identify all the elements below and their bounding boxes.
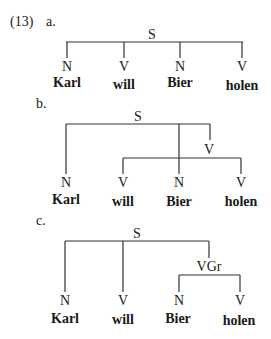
tree-b-cat-1: N [61, 176, 71, 190]
tree-c-word-4: holen [223, 314, 256, 328]
tree-c-inner: VGr [197, 260, 222, 274]
tree-c-word-2: will [112, 313, 134, 327]
tree-c-word-1: Karl [51, 312, 79, 326]
tree-c-cat-4: V [235, 294, 245, 308]
tree-c-cat-2: V [118, 294, 128, 308]
tree-c-cat-1: N [60, 294, 70, 308]
tree-a-label: a. [46, 15, 56, 29]
tree-a-word-4: holen [226, 79, 259, 93]
tree-b-label: b. [36, 97, 47, 111]
tree-b-cat-2: V [118, 176, 128, 190]
tree-b-word-2: will [112, 195, 134, 209]
tree-a-root: S [148, 28, 156, 42]
tree-b-root: S [134, 110, 142, 124]
tree-a-cat-3: N [175, 60, 185, 74]
tree-b-word-3: Bier [166, 195, 192, 209]
tree-a-word-3: Bier [167, 76, 193, 90]
tree-c-word-3: Bier [165, 312, 191, 326]
tree-lines [0, 0, 271, 339]
tree-c-cat-3: N [174, 294, 184, 308]
tree-a-cat-2: V [119, 60, 129, 74]
tree-b-word-4: holen [225, 195, 258, 209]
tree-b-word-1: Karl [52, 193, 80, 207]
tree-a-cat-4: V [237, 60, 247, 74]
tree-b-cat-4: V [236, 176, 246, 190]
tree-b-inner: V [204, 143, 214, 157]
example-number: (13) [10, 15, 33, 29]
tree-a-word-2: will [113, 78, 135, 92]
tree-c-label: c. [36, 214, 46, 228]
tree-a-word-1: Karl [53, 76, 81, 90]
tree-c-root: S [133, 227, 141, 241]
tree-b-cat-3: N [174, 176, 184, 190]
tree-a-cat-1: N [62, 60, 72, 74]
